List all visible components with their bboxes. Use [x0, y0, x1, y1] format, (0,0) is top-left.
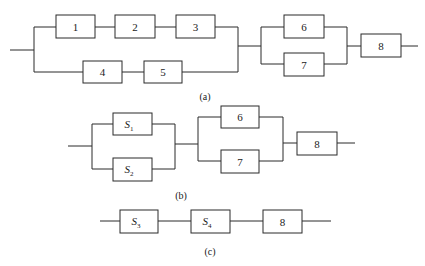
block-6: 6: [221, 106, 259, 128]
block-s3: S3: [120, 210, 158, 233]
reliability-diagram: 1 2 3 4 5 6 7 8 (a): [0, 0, 425, 266]
svg-text:4: 4: [100, 66, 106, 78]
block-8: 8: [263, 210, 302, 233]
caption-a: (a): [199, 91, 210, 103]
svg-text:6: 6: [301, 21, 307, 33]
block-4: 4: [83, 61, 122, 83]
svg-text:7: 7: [237, 156, 243, 168]
panel-c: S3 S4 8 (c): [100, 210, 331, 258]
block-6: 6: [284, 15, 324, 38]
block-s1: S1: [113, 113, 152, 135]
block-1: 1: [56, 15, 95, 38]
svg-text:1: 1: [73, 21, 79, 33]
svg-text:7: 7: [301, 59, 307, 71]
svg-text:3: 3: [193, 21, 199, 33]
caption-b: (b): [175, 190, 187, 202]
block-7: 7: [284, 53, 324, 76]
svg-text:8: 8: [378, 40, 384, 52]
svg-text:8: 8: [314, 138, 320, 150]
block-s2: S2: [113, 158, 152, 181]
block-3: 3: [176, 15, 215, 38]
block-s4: S4: [191, 210, 230, 233]
panel-b: S1 S2 6 7 8 (b): [68, 106, 355, 202]
block-5: 5: [144, 61, 182, 83]
caption-c: (c): [204, 246, 215, 258]
block-8: 8: [361, 34, 401, 57]
svg-text:2: 2: [132, 21, 138, 33]
svg-text:8: 8: [280, 216, 286, 228]
svg-text:6: 6: [237, 111, 243, 123]
block-7: 7: [221, 150, 259, 173]
block-2: 2: [115, 15, 155, 38]
block-8: 8: [297, 132, 337, 155]
panel-a: 1 2 3 4 5 6 7 8 (a): [10, 15, 418, 103]
svg-text:5: 5: [160, 66, 166, 78]
